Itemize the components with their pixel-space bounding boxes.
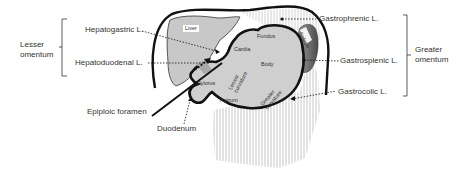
duodenum-label: Duodenum bbox=[157, 124, 196, 134]
lesser-omentum-label: Lesser omentum bbox=[20, 40, 53, 60]
gastrophrenic-dot bbox=[280, 17, 283, 20]
gastrosplenic-ligament-label: Gastrosplenic L. bbox=[340, 56, 398, 66]
greater-omentum-line1: Greater bbox=[415, 45, 448, 55]
lesser-omentum-line1: Lesser bbox=[20, 40, 53, 50]
lesser-omentum-line2: omentum bbox=[20, 50, 53, 60]
greater-omentum-line2: omentum bbox=[415, 55, 448, 65]
hepatogastric-arrowhead bbox=[215, 49, 220, 54]
duodenum-pointer bbox=[184, 100, 190, 124]
stomach-ligaments-diagram: Lesser omentum Greater omentum Hepatogas… bbox=[0, 0, 469, 177]
hepatogastric-ligament-label: Hepatogastric L. bbox=[85, 25, 143, 35]
body-label: Body bbox=[261, 61, 274, 67]
fundus-label: Fundus bbox=[257, 33, 275, 39]
gastrosplenic-dot bbox=[302, 58, 305, 61]
hepatoduodenal-ligament-label: Hepatoduodenal L. bbox=[75, 58, 143, 68]
epiploic-foramen-label: Epiploic foramen bbox=[87, 107, 147, 117]
gastrocolic-ligament-label: Gastrocolic L. bbox=[338, 87, 387, 97]
pylorus-label: Pylorus bbox=[197, 80, 215, 86]
greater-omentum-bracket bbox=[403, 15, 411, 96]
greater-omentum-label: Greater omentum bbox=[415, 45, 448, 65]
gastrophrenic-ligament-label: Gastrophrenic L. bbox=[319, 14, 378, 24]
cardia-label: Cardia bbox=[234, 46, 250, 52]
antrum-label: Antrum bbox=[220, 97, 238, 103]
lesser-omentum-bracket bbox=[59, 19, 67, 76]
liver-label: Liver bbox=[183, 25, 199, 32]
